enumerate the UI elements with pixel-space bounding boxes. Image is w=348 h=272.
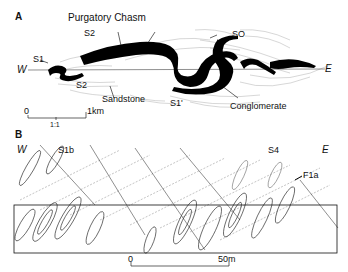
scale-a-start: 0 xyxy=(24,106,29,116)
f1a-leader xyxy=(295,176,302,180)
panel-b-west: W xyxy=(17,145,26,155)
panel-a-west: W xyxy=(17,65,26,75)
panel-a-folds xyxy=(48,36,316,95)
scale-a-end: 1km xyxy=(87,106,104,116)
panel-b-label: B xyxy=(15,130,22,140)
panel-a-label: A xyxy=(15,12,22,22)
label-f1a: F1a xyxy=(303,170,319,180)
panel-b-east: E xyxy=(322,145,329,155)
label-sandstone: Sandstone xyxy=(102,94,145,104)
label-s2-lower: S2 xyxy=(76,80,87,90)
scale-a-ratio: 1:1 xyxy=(50,120,60,130)
label-conglomerate: Conglomerate xyxy=(230,101,287,111)
panel-a-scale-bar xyxy=(28,112,86,120)
panel-a-hatching xyxy=(55,30,330,108)
label-purgatory-chasm: Purgatory Chasm xyxy=(68,13,146,23)
label-s1-left: S1 xyxy=(33,54,44,64)
label-s2-upper: S2 xyxy=(84,28,95,38)
panel-b-scale-bar xyxy=(131,262,229,266)
figure-drawing xyxy=(0,0,348,272)
label-s1-prime: S1' xyxy=(170,98,183,108)
scale-b-start: 0 xyxy=(128,254,133,264)
scale-b-end: 50m xyxy=(218,254,236,264)
panel-a-east: E xyxy=(325,64,332,74)
panel-b-cleavage xyxy=(20,150,330,240)
label-s4: S4 xyxy=(268,145,279,155)
label-s1b: S1b xyxy=(58,145,74,155)
label-s0: SO xyxy=(232,29,245,39)
